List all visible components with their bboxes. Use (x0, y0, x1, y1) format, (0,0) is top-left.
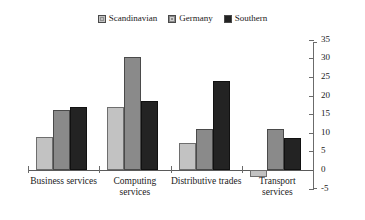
bar-chart: Scandinavian Germany Southern -505101520… (0, 0, 365, 220)
x-axis-tick-0 (28, 166, 29, 173)
y-tick-label-15: 15 (321, 109, 330, 118)
x-axis-tick-2 (171, 166, 172, 173)
y-tick-15 (309, 114, 314, 115)
y-tick-label-neg5: -5 (321, 184, 329, 193)
legend-item-southern[interactable]: Southern (224, 14, 268, 23)
bar-germany-1[interactable] (53, 110, 70, 170)
bar-germany-2[interactable] (124, 57, 141, 170)
bar-scandinavian-3[interactable] (179, 143, 196, 170)
legend-swatch-germany-icon (168, 15, 176, 23)
legend-label-southern: Southern (235, 14, 268, 23)
legend-swatch-scandinavian-icon (98, 15, 106, 23)
y-tick-25 (309, 77, 314, 78)
bar-southern-1[interactable] (70, 107, 87, 170)
legend-item-germany[interactable]: Germany (168, 14, 213, 23)
y-tick-5 (309, 151, 314, 152)
bar-southern-2[interactable] (141, 101, 158, 170)
bar-southern-3[interactable] (213, 81, 230, 170)
x-axis-tick-4 (313, 166, 314, 173)
legend-label-germany: Germany (179, 14, 213, 23)
y-tick-30 (309, 58, 314, 59)
y-tick-label-25: 25 (321, 72, 330, 81)
x-category-label-1: Business services (28, 176, 99, 187)
bar-scandinavian-1[interactable] (36, 137, 53, 170)
bar-germany-4[interactable] (267, 129, 284, 170)
y-tick-35 (309, 40, 314, 41)
y-tick-10 (309, 133, 314, 134)
legend-label-scandinavian: Scandinavian (109, 14, 158, 23)
y-tick-label-20: 20 (321, 91, 330, 100)
legend-item-scandinavian[interactable]: Scandinavian (98, 14, 158, 23)
x-axis-tick-3 (242, 166, 243, 173)
y-tick-label-30: 30 (321, 53, 330, 62)
x-category-label-3: Distributive trades (171, 176, 242, 187)
y-tick-label-10: 10 (321, 128, 330, 137)
bar-southern-4[interactable] (284, 138, 301, 170)
y-tick-label-5: 5 (321, 146, 326, 155)
y-tick-label-0: 0 (321, 165, 326, 174)
y-tick-20 (309, 96, 314, 97)
x-category-label-4: Transport services (242, 176, 313, 198)
legend-swatch-southern-icon (224, 15, 232, 23)
bar-germany-3[interactable] (196, 129, 213, 170)
y-tick-label-35: 35 (321, 35, 330, 44)
bar-scandinavian-2[interactable] (107, 107, 124, 170)
y-axis-top-cap (313, 42, 317, 43)
x-category-label-2: Computing services (99, 176, 170, 198)
chart-legend: Scandinavian Germany Southern (0, 14, 365, 23)
x-axis-tick-1 (99, 166, 100, 173)
